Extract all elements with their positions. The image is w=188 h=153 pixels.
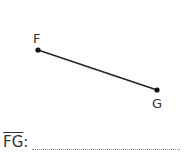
point-f xyxy=(35,47,40,52)
segment-fg xyxy=(38,50,157,90)
segment-name: FG xyxy=(3,135,23,150)
point-g xyxy=(154,87,159,92)
label-f: F xyxy=(33,31,40,46)
label-g: G xyxy=(152,96,162,111)
answer-blank[interactable] xyxy=(32,137,180,150)
colon: : xyxy=(23,135,28,150)
segment-diagram: F G xyxy=(0,0,188,153)
answer-line: FG: xyxy=(3,135,180,150)
